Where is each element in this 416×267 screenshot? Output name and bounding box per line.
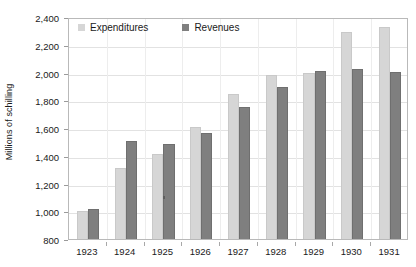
y-tick-label: 2,000	[35, 68, 59, 79]
speck-artifact	[163, 196, 165, 199]
legend: Expenditures Revenues	[78, 20, 239, 34]
x-tick-mark	[181, 242, 182, 246]
bar-expenditures-1926	[190, 127, 201, 239]
category-separator	[182, 19, 183, 239]
y-tick-mark	[64, 240, 68, 241]
bar-revenues-1923	[88, 209, 99, 239]
category-separator	[333, 19, 334, 239]
bar-expenditures-1923	[77, 211, 88, 239]
x-tick-label: 1931	[379, 246, 400, 257]
bar-expenditures-1927	[228, 94, 239, 239]
bar-revenues-1926	[201, 133, 212, 239]
x-tick-label: 1930	[341, 246, 362, 257]
bar-revenues-1931	[390, 72, 401, 239]
legend-label-revenues: Revenues	[194, 22, 239, 33]
x-tick-label: 1926	[190, 246, 211, 257]
category-separator	[145, 19, 146, 239]
x-tick-label: 1928	[265, 246, 286, 257]
y-axis-tick-labels: 2,4002,2002,0001,8001,6001,4001,2001,000…	[18, 0, 64, 267]
x-tick-mark	[106, 242, 107, 246]
category-separator	[371, 19, 372, 239]
x-tick-mark	[332, 242, 333, 246]
y-tick-label: 2,200	[35, 40, 59, 51]
x-tick-mark	[295, 242, 296, 246]
bar-expenditures-1931	[379, 27, 390, 239]
bar-chart: Millions of schilling 2,4002,2002,0001,8…	[0, 0, 416, 267]
x-tick-mark	[144, 242, 145, 246]
x-tick-label: 1927	[227, 246, 248, 257]
x-tick-label: 1924	[114, 246, 135, 257]
category-separator	[220, 19, 221, 239]
y-axis-title: Millions of schilling	[0, 0, 18, 243]
gridline	[69, 47, 407, 48]
bar-revenues-1930	[352, 69, 363, 239]
x-axis-tick-labels: 192319241925192619271928192919301931	[68, 242, 408, 262]
x-tick-mark	[257, 242, 258, 246]
y-tick-label: 800	[43, 235, 59, 246]
bar-expenditures-1928	[266, 75, 277, 239]
y-axis-title-label: Millions of schilling	[4, 83, 14, 160]
legend-item-expenditures: Expenditures	[78, 22, 148, 33]
y-tick-label: 1,000	[35, 207, 59, 218]
category-separator	[107, 19, 108, 239]
bar-expenditures-1930	[341, 32, 352, 239]
x-tick-mark	[219, 242, 220, 246]
bar-expenditures-1924	[115, 168, 126, 239]
legend-swatch-icon-revenues	[182, 24, 189, 31]
bar-expenditures-1925	[152, 154, 163, 239]
y-tick-label: 2,400	[35, 13, 59, 24]
bar-expenditures-1929	[303, 73, 314, 240]
legend-label-expenditures: Expenditures	[90, 22, 148, 33]
y-tick-label: 1,600	[35, 124, 59, 135]
bar-revenues-1928	[277, 87, 288, 239]
y-tick-label: 1,400	[35, 151, 59, 162]
category-separator	[296, 19, 297, 239]
legend-swatch-icon-expenditures	[78, 24, 85, 31]
legend-item-revenues: Revenues	[182, 22, 239, 33]
bar-revenues-1929	[315, 71, 326, 239]
y-tick-label: 1,800	[35, 96, 59, 107]
x-tick-label: 1923	[76, 246, 97, 257]
x-tick-label: 1925	[152, 246, 173, 257]
plot-area	[68, 18, 408, 240]
category-separator	[258, 19, 259, 239]
x-tick-label: 1929	[303, 246, 324, 257]
bar-revenues-1927	[239, 107, 250, 239]
bar-revenues-1925	[163, 144, 174, 239]
x-tick-mark	[370, 242, 371, 246]
bar-revenues-1924	[126, 141, 137, 240]
y-tick-label: 1,200	[35, 179, 59, 190]
